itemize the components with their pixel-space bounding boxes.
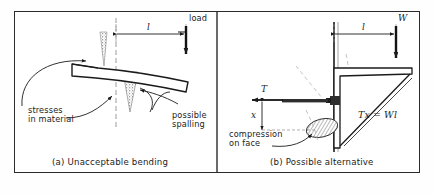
label-compression-line-2: on face	[229, 139, 283, 148]
label-spalling-line-2: spalling	[172, 120, 207, 129]
bolt-icon	[326, 96, 340, 105]
label-force-t: T	[261, 84, 267, 94]
label-equation-tx-wl: Tx = Wl	[358, 110, 397, 121]
label-force-w: W	[398, 13, 407, 23]
angle-bracket-with-brace-icon	[334, 68, 412, 148]
label-dimension-x: x	[251, 110, 256, 120]
label-stresses-line-2: in material	[28, 115, 74, 124]
caption-panel-a: (a) Unacceptable bending	[52, 158, 168, 168]
curved-leader-arrow-icon	[140, 90, 178, 104]
dimension-arrow-icon	[116, 24, 186, 44]
caption-panel-b: (b) Possible alternative	[270, 158, 374, 168]
label-load: load	[189, 14, 207, 23]
label-dimension-l: l	[147, 22, 150, 32]
label-dimension-l: l	[362, 22, 365, 32]
down-arrow-icon	[178, 26, 186, 54]
figure-container: load l stresses in material possible spa…	[0, 0, 435, 194]
stippled-stress-cone-icon	[100, 32, 107, 66]
label-stresses-in-material: stresses in material	[28, 106, 74, 124]
curved-leader-arrow-icon	[140, 88, 170, 112]
label-compression-on-face: compression on face	[229, 130, 283, 148]
label-possible-spalling: possible spalling	[172, 111, 207, 129]
tie-rod-icon	[282, 99, 328, 102]
